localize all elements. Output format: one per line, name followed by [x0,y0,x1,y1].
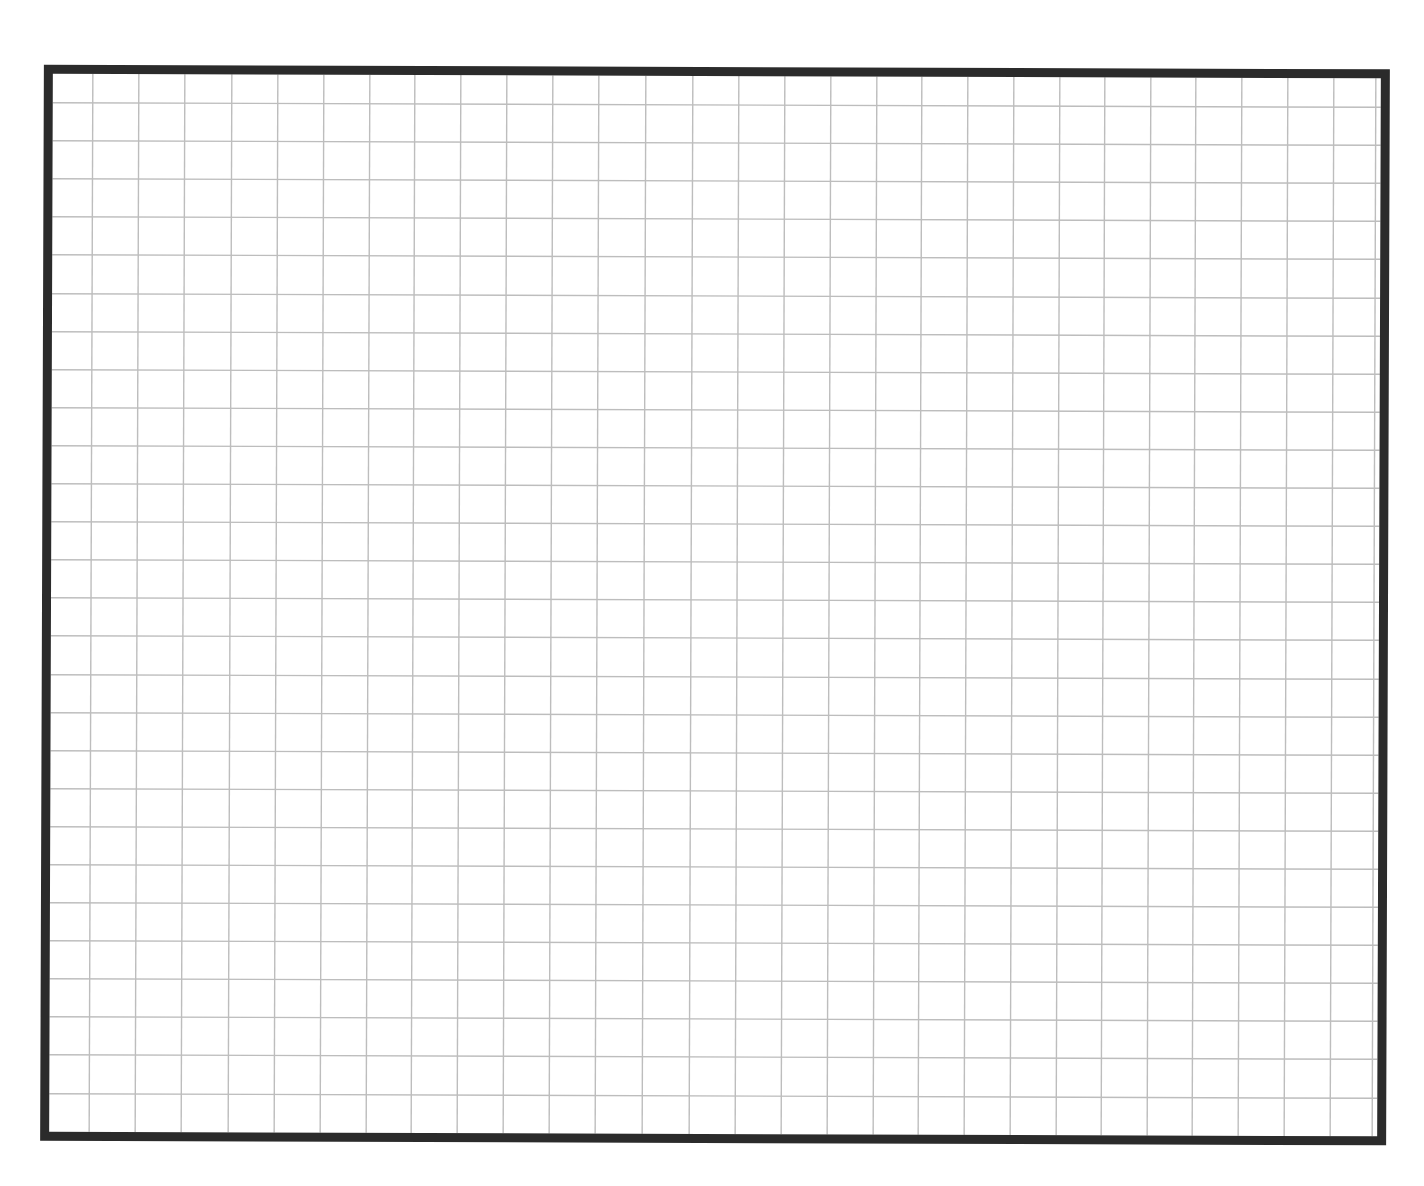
grid-paper-sheet [0,0,1424,1186]
page-background [0,0,1424,1186]
grid-canvas [0,0,1424,1186]
